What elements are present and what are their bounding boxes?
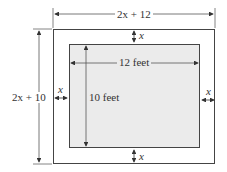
inner-height-label: 10 feet [87,92,121,103]
border-right-label: x [204,86,213,97]
border-bottom-label: x [137,151,146,162]
outer-width-label: 2x + 12 [115,9,153,20]
outer-height-label: 2x + 10 [10,92,48,103]
border-top-label: x [137,30,146,41]
inner-dimension-lines [0,0,227,172]
border-left-label: x [56,84,65,95]
inner-width-label: 12 feet [117,57,151,68]
